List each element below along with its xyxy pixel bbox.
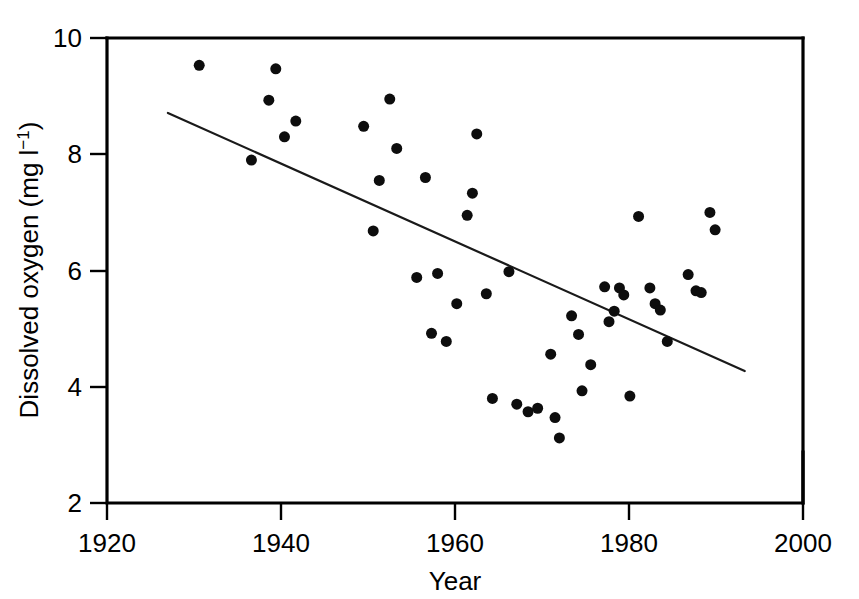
data-point: [603, 316, 614, 327]
data-point: [633, 211, 644, 222]
data-point: [655, 305, 666, 316]
y-axis-title-exponent: −1: [14, 130, 33, 149]
x-tick-label-1940: 1940: [252, 528, 310, 558]
data-point: [503, 266, 514, 277]
data-point: [411, 272, 422, 283]
y-tick-label-2: 2: [68, 488, 82, 518]
y-axis-ticks: [90, 38, 107, 503]
x-tick-label-1960: 1960: [426, 528, 484, 558]
data-point: [704, 207, 715, 218]
data-point: [644, 282, 655, 293]
data-point: [462, 210, 473, 221]
y-axis-title: Dissolved oxygen (mg l−1): [14, 122, 44, 419]
data-point: [662, 336, 673, 347]
data-point: [391, 143, 402, 154]
data-point: [710, 224, 721, 235]
y-tick-label-6: 6: [68, 256, 82, 286]
data-point: [550, 412, 561, 423]
data-point: [263, 95, 274, 106]
data-point: [471, 128, 482, 139]
data-point: [467, 188, 478, 199]
data-point: [609, 306, 620, 317]
x-axis-ticks: [107, 503, 803, 520]
y-tick-label-4: 4: [68, 372, 82, 402]
data-point: [618, 289, 629, 300]
data-point: [566, 310, 577, 321]
data-point: [246, 155, 257, 166]
x-axis-title: Year: [429, 566, 482, 596]
data-point: [194, 60, 205, 71]
data-point: [420, 172, 431, 183]
axis-frame: [107, 38, 803, 503]
scatter-plot-svg: 2 4 6 8 10 1920 1940 1960 1980 2000 Year…: [0, 0, 859, 599]
data-point: [624, 391, 635, 402]
chart-figure: 2 4 6 8 10 1920 1940 1960 1980 2000 Year…: [0, 0, 859, 599]
data-point: [374, 175, 385, 186]
data-point: [599, 281, 610, 292]
data-point: [441, 336, 452, 347]
data-point: [290, 116, 301, 127]
data-point: [683, 269, 694, 280]
y-tick-label-8: 8: [68, 139, 82, 169]
x-tick-label-1920: 1920: [78, 528, 136, 558]
data-point: [554, 432, 565, 443]
data-point: [532, 403, 543, 414]
data-point: [696, 287, 707, 298]
data-point: [481, 288, 492, 299]
data-point: [384, 94, 395, 105]
x-tick-label-1980: 1980: [600, 528, 658, 558]
data-point: [358, 121, 369, 132]
data-point: [426, 328, 437, 339]
data-point: [487, 393, 498, 404]
scatter-points-group: [194, 60, 721, 444]
data-point: [573, 329, 584, 340]
data-point: [577, 385, 588, 396]
data-point: [432, 268, 443, 279]
x-tick-label-2000: 2000: [774, 528, 832, 558]
data-point: [523, 406, 534, 417]
data-point: [279, 131, 290, 142]
data-point: [368, 225, 379, 236]
data-point: [451, 298, 462, 309]
y-axis-title-main: Dissolved oxygen (mg l: [14, 150, 44, 419]
data-point: [545, 349, 556, 360]
data-point: [585, 359, 596, 370]
y-tick-label-10: 10: [53, 23, 82, 53]
y-axis-title-tail: ): [14, 122, 44, 131]
data-point: [270, 63, 281, 74]
plot-axes: [107, 38, 803, 503]
regression-trend-line: [168, 113, 745, 371]
data-point: [511, 399, 522, 410]
